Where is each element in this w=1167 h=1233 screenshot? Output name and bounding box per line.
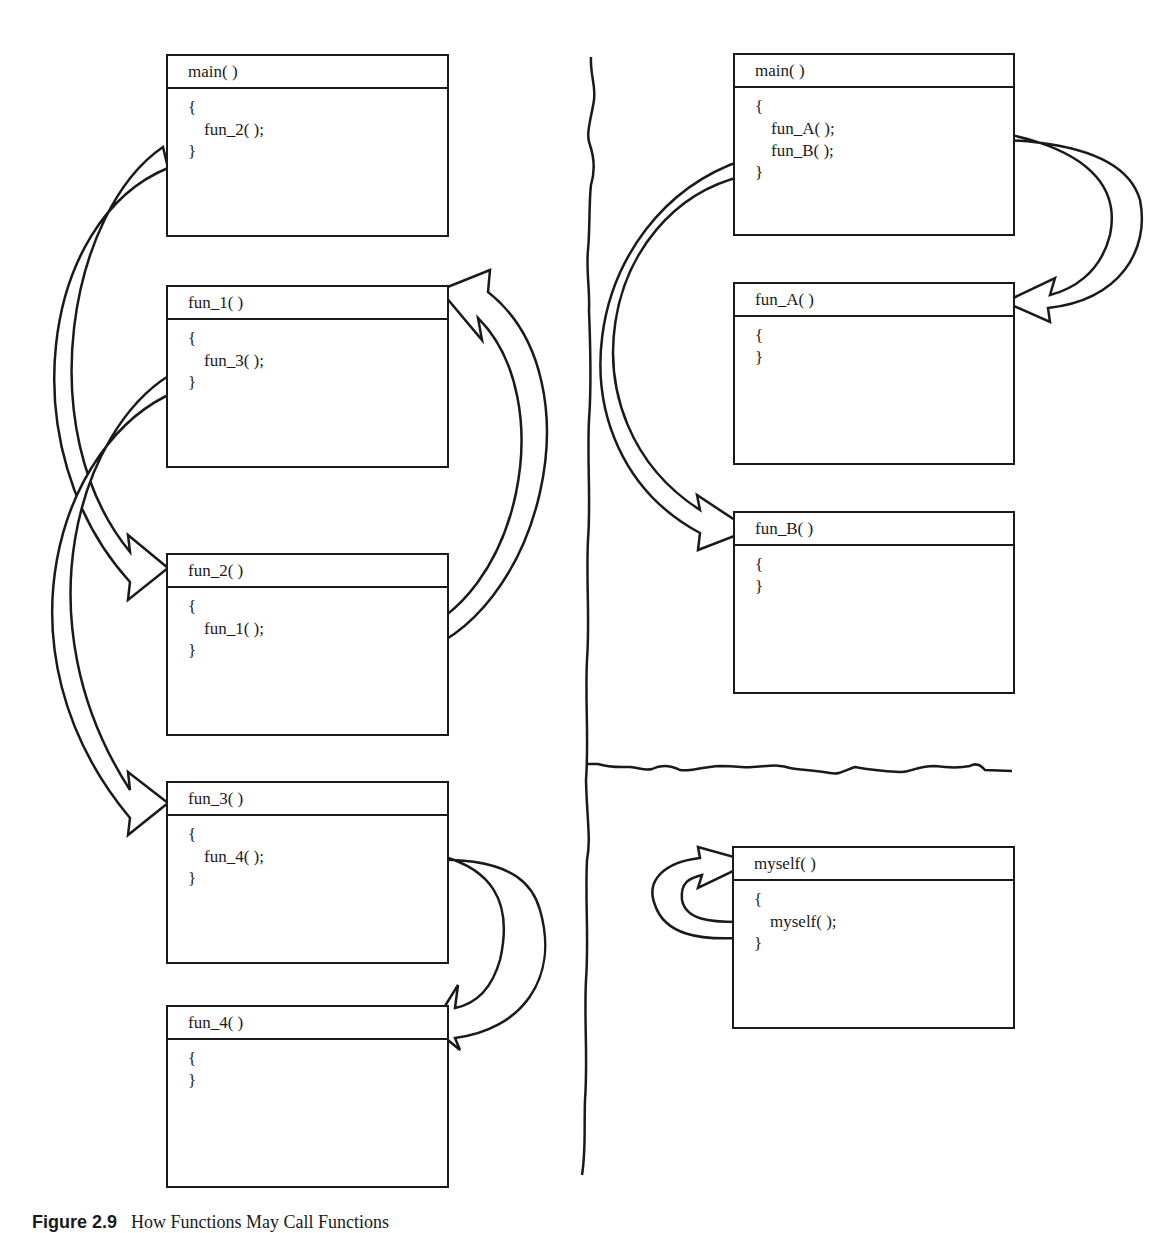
open-brace: { xyxy=(754,889,1013,911)
function-box-myself: myself( ) { myself( ); } xyxy=(732,846,1015,1029)
function-call: fun_3( ); xyxy=(188,350,447,372)
function-box-fun1: fun_1( ) { fun_3( ); } xyxy=(166,285,449,468)
function-box-funA: fun_A( ) { } xyxy=(733,282,1015,465)
function-body: { fun_2( ); } xyxy=(168,89,447,163)
function-call: fun_1( ); xyxy=(188,618,447,640)
function-call: fun_B( ); xyxy=(755,140,1013,162)
function-body: { } xyxy=(735,317,1013,369)
figure-label: Figure 2.9 xyxy=(32,1212,117,1232)
close-brace: } xyxy=(188,372,447,394)
function-box-main-left: main( ) { fun_2( ); } xyxy=(166,54,449,237)
close-brace: } xyxy=(188,1070,447,1092)
open-brace: { xyxy=(188,328,447,350)
function-title: fun_A( ) xyxy=(735,284,1013,317)
close-brace: } xyxy=(188,640,447,662)
function-body: { fun_1( ); } xyxy=(168,588,447,662)
function-body: { fun_A( ); fun_B( ); } xyxy=(735,88,1013,184)
open-brace: { xyxy=(755,554,1013,576)
close-brace: } xyxy=(755,347,1013,369)
function-call: fun_2( ); xyxy=(188,119,447,141)
open-brace: { xyxy=(188,596,447,618)
function-title: fun_B( ) xyxy=(735,513,1013,546)
open-brace: { xyxy=(188,97,447,119)
vertical-divider xyxy=(582,57,594,1175)
function-box-funB: fun_B( ) { } xyxy=(733,511,1015,694)
close-brace: } xyxy=(754,933,1013,955)
close-brace: } xyxy=(755,162,1013,184)
function-title: fun_3( ) xyxy=(168,783,447,816)
function-title: fun_2( ) xyxy=(168,555,447,588)
open-brace: { xyxy=(188,824,447,846)
function-box-fun2: fun_2( ) { fun_1( ); } xyxy=(166,553,449,736)
open-brace: { xyxy=(755,96,1013,118)
function-box-fun3: fun_3( ) { fun_4( ); } xyxy=(166,781,449,964)
function-body: { fun_4( ); } xyxy=(168,816,447,890)
function-title: fun_4( ) xyxy=(168,1007,447,1040)
open-brace: { xyxy=(755,325,1013,347)
function-box-fun4: fun_4( ) { } xyxy=(166,1005,449,1188)
function-box-main-right: main( ) { fun_A( ); fun_B( ); } xyxy=(733,53,1015,236)
function-title: myself( ) xyxy=(734,848,1013,881)
function-title: main( ) xyxy=(735,55,1013,88)
function-body: { } xyxy=(168,1040,447,1092)
function-title: main( ) xyxy=(168,56,447,89)
horizontal-divider xyxy=(587,764,1012,773)
arrow-mainB-to-funB xyxy=(600,160,750,550)
close-brace: } xyxy=(188,141,447,163)
figure-caption-text: How Functions May Call Functions xyxy=(131,1212,389,1232)
close-brace: } xyxy=(188,868,447,890)
function-body: { } xyxy=(735,546,1013,598)
function-body: { fun_3( ); } xyxy=(168,320,447,394)
function-body: { myself( ); } xyxy=(734,881,1013,955)
open-brace: { xyxy=(188,1048,447,1070)
close-brace: } xyxy=(755,576,1013,598)
figure-caption: Figure 2.9How Functions May Call Functio… xyxy=(32,1212,389,1233)
function-title: fun_1( ) xyxy=(168,287,447,320)
function-call: fun_4( ); xyxy=(188,846,447,868)
function-call: myself( ); xyxy=(754,911,1013,933)
function-call: fun_A( ); xyxy=(755,118,1013,140)
